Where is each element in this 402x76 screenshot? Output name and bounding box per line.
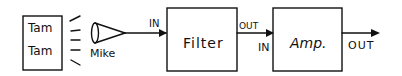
mic-label: Mike xyxy=(90,48,115,59)
tamtam-label-2: Tam xyxy=(28,45,52,57)
tamtam-label-1: Tam xyxy=(28,22,52,34)
amp-label: Amp. xyxy=(290,36,327,50)
filter-label: Filter xyxy=(183,36,224,50)
amp-out-label: OUT xyxy=(348,40,374,51)
amp-in-label: IN xyxy=(258,42,269,53)
arrow-into-filter xyxy=(159,29,167,37)
signal-chain-diagram: Tam Tam Mike IN Filter OUT IN Amp. OUT xyxy=(0,0,402,76)
filter-in-label: IN xyxy=(149,19,159,29)
mic-icon xyxy=(92,23,99,43)
arrow-out xyxy=(371,29,380,37)
filter-out-label: OUT xyxy=(239,22,258,31)
